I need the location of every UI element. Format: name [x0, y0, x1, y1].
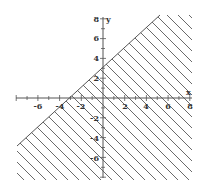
- inequality-graph: -6 -4 -2 2 4 6 8 8 6 4 2 -2 -4 -6 y x: [0, 0, 205, 190]
- y-tick-label: 6: [93, 33, 99, 43]
- y-tick-label: -6: [90, 153, 99, 163]
- y-tick-label: -2: [90, 113, 99, 123]
- x-tick-label: -4: [56, 101, 65, 111]
- x-tick-label: 2: [122, 101, 128, 111]
- y-tick-label: 2: [93, 73, 99, 83]
- y-tick-label: 8: [93, 14, 99, 24]
- x-tick-label: 4: [143, 101, 149, 111]
- y-tick-label: 4: [93, 53, 99, 63]
- y-axis-label: y: [105, 14, 111, 24]
- x-tick-label: 8: [187, 101, 193, 111]
- boundary-line: [17, 15, 160, 146]
- x-tick-label: -2: [77, 101, 86, 111]
- x-axis-label: x: [186, 87, 191, 97]
- x-tick-label: -6: [34, 101, 43, 111]
- x-tick-label: 6: [165, 101, 171, 111]
- y-tick-label: -4: [90, 133, 99, 143]
